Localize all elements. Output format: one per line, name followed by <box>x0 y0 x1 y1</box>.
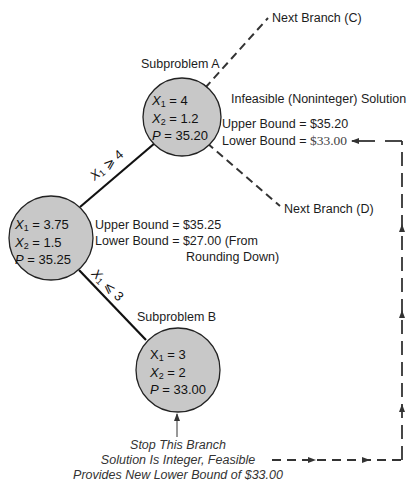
root-lower-bound-note: Rounding Down) <box>186 250 279 265</box>
subproblem-a-x2: X2 = 1.2 <box>152 112 208 130</box>
subproblem-a-status: Infeasible (Noninteger) Solution <box>231 92 406 107</box>
next-branch-d-label: Next Branch (D) <box>284 202 374 217</box>
subproblem-b-x1: X1 = 3 <box>150 348 206 366</box>
subproblem-b-values: X1 = 3 X2 = 2 P = 33.00 <box>150 348 206 398</box>
subproblem-a-p: P = 35.20 <box>152 129 208 144</box>
root-upper-bound: Upper Bound = $35.25 <box>95 218 221 233</box>
subproblem-a-lower-bound: Lower Bound = $33.00 <box>222 133 347 149</box>
subproblem-b-title: Subproblem B <box>137 310 216 325</box>
subproblem-b-x2: X2 = 2 <box>150 366 206 384</box>
root-lower-bound: Lower Bound = $27.00 (From <box>95 234 258 249</box>
note-line-3: Provides New Lower Bound of $33.00 <box>53 468 303 483</box>
root-x1: X1 = 3.75 <box>15 218 71 236</box>
stop-branch-note: Stop This Branch Solution Is Integer, Fe… <box>53 438 303 483</box>
note-line-1: Stop This Branch <box>53 438 303 453</box>
root-values: X1 = 3.75 X2 = 1.5 P = 35.25 <box>15 218 71 268</box>
subproblem-a-values: X1 = 4 X2 = 1.2 P = 35.20 <box>152 94 208 144</box>
subproblem-a-upper-bound: Upper Bound = $35.20 <box>222 117 348 132</box>
subproblem-a-x1: X1 = 4 <box>152 94 208 112</box>
edge-next-branch-c <box>205 18 268 88</box>
feedback-arrowheads <box>308 224 405 463</box>
edge-next-branch-d <box>207 143 280 206</box>
note-line-2: Solution Is Integer, Feasible <box>53 453 303 468</box>
root-x2: X2 = 1.5 <box>15 236 71 254</box>
root-p: P = 35.25 <box>15 253 71 268</box>
feedback-path <box>272 141 402 460</box>
subproblem-b-p: P = 33.00 <box>150 383 206 398</box>
next-branch-c-label: Next Branch (C) <box>272 11 362 26</box>
subproblem-a-title: Subproblem A <box>141 57 220 72</box>
